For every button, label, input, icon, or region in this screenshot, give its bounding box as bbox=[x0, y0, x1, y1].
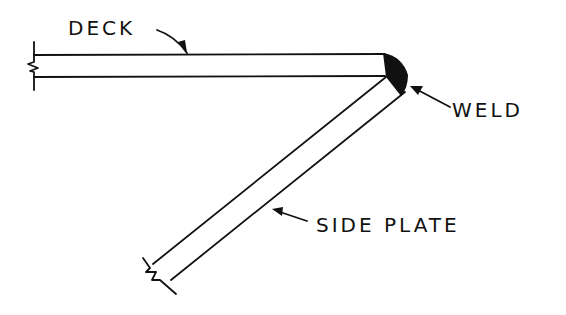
side-plate bbox=[143, 77, 405, 294]
side-plate-leader-line bbox=[280, 212, 307, 221]
weld-joint-drawing: DECK WELD SIDE PLATE bbox=[0, 0, 566, 315]
break-line-icon bbox=[28, 42, 38, 90]
deck-plate bbox=[28, 42, 385, 90]
deck-label: DECK bbox=[68, 16, 135, 40]
arrowhead-icon bbox=[178, 40, 187, 53]
weld-bead bbox=[383, 53, 408, 96]
weld-label: WELD bbox=[452, 98, 523, 122]
break-line-icon bbox=[143, 258, 176, 294]
arrowhead-icon bbox=[272, 207, 283, 216]
side-plate-label: SIDE PLATE bbox=[316, 213, 460, 237]
diagram-canvas: DECK WELD SIDE PLATE bbox=[0, 0, 566, 315]
arrowhead-icon bbox=[410, 86, 423, 95]
